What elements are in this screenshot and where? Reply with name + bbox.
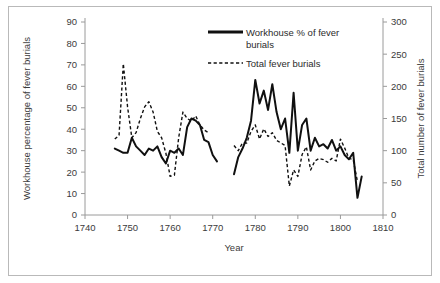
x-tick-label: 1750 [117,222,138,233]
y-left-tick-label: 30 [66,145,77,156]
y-left-tick-label: 40 [66,124,77,135]
y-left-tick-label: 20 [66,167,77,178]
x-tick-label: 1740 [74,222,95,233]
y-left-tick-label: 0 [72,209,77,220]
y-left-tick-label: 70 [66,59,77,70]
y-right-axis-title: Total number of fever burials [415,58,426,178]
y-left-tick-label: 80 [66,38,77,49]
y-right-tick-label: 250 [391,49,407,60]
legend-label-workhouse-percentage: Workhouse % of fever [246,27,339,38]
x-tick-label: 1780 [245,222,266,233]
x-tick-label: 1760 [160,222,181,233]
series-line-workhouse-percentage [115,119,217,164]
y-right-tick-label: 200 [391,81,407,92]
x-tick-label: 1810 [372,222,393,233]
y-left-tick-label: 50 [66,102,77,113]
y-left-axis-title: Workhouse percentage of fever burials [21,37,32,200]
y-left-tick-label: 10 [66,188,77,199]
x-tick-label: 1770 [202,222,223,233]
y-right-tick-label: 50 [391,177,402,188]
legend-label-workhouse-percentage-line2: burials [246,39,274,50]
y-right-tick-label: 0 [391,209,396,220]
y-right-tick-label: 100 [391,145,407,156]
y-left-tick-label: 60 [66,81,77,92]
line-chart: 0102030405060708090050100150200250300174… [0,0,440,283]
y-left-tick-label: 90 [66,16,77,27]
legend-label-total-fever-burials: Total fever burials [246,58,321,69]
series-line-workhouse-percentage [234,80,362,198]
y-right-tick-label: 150 [391,113,407,124]
x-tick-label: 1800 [330,222,351,233]
figure-container: 0102030405060708090050100150200250300174… [0,0,440,283]
x-axis-title: Year [224,242,243,253]
x-tick-label: 1790 [287,222,308,233]
y-right-tick-label: 300 [391,16,407,27]
